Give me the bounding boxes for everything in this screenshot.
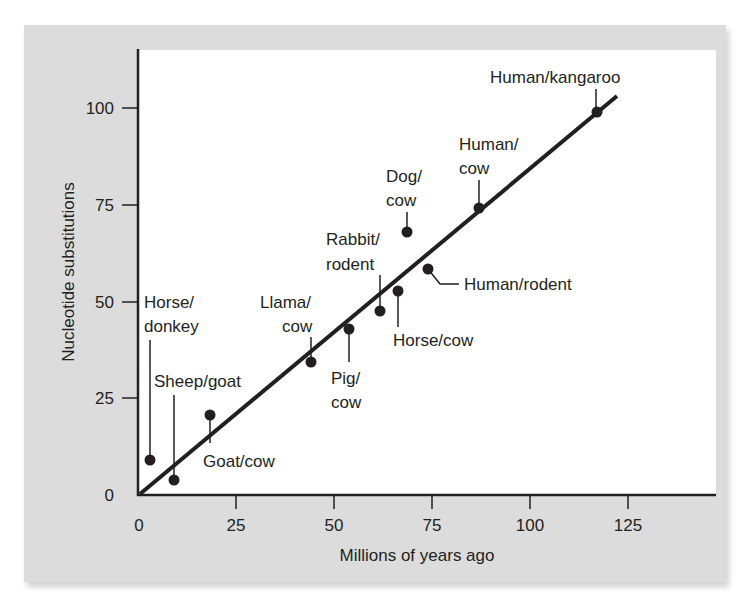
point-llama-cow xyxy=(306,357,317,368)
point-human-cow xyxy=(474,203,485,214)
label-horse-cow: Horse/cow xyxy=(393,331,474,350)
label-llama-cow-line1: Llama/ xyxy=(260,293,311,312)
x-tick-label: 125 xyxy=(614,516,642,535)
x-axis-title: Millions of years ago xyxy=(340,546,495,565)
point-horse-cow xyxy=(393,286,404,297)
x-tick-label: 100 xyxy=(516,516,544,535)
label-goat-cow: Goat/cow xyxy=(203,452,276,471)
y-tick-label: 25 xyxy=(95,389,114,408)
point-dog-cow xyxy=(402,227,413,238)
point-human-kangaroo xyxy=(592,107,603,118)
point-sheep-goat xyxy=(169,475,180,486)
point-rabbit-rodent xyxy=(375,306,386,317)
label-pig-cow-line2: cow xyxy=(331,393,362,412)
label-pig-cow-line1: Pig/ xyxy=(331,369,361,388)
label-dog-cow-line2: cow xyxy=(386,191,417,210)
y-tick-label: 75 xyxy=(95,196,114,215)
scatter-chart: 100 75 50 25 0 0 25 50 75 100 125 Millio… xyxy=(0,0,747,612)
label-human-kangaroo: Human/kangaroo xyxy=(490,68,620,87)
y-ticks xyxy=(122,108,138,398)
y-tick-labels: 100 75 50 25 0 xyxy=(86,99,114,505)
label-dog-cow-line1: Dog/ xyxy=(386,167,422,186)
label-human-rodent: Human/rodent xyxy=(464,275,572,294)
label-sheep-goat: Sheep/goat xyxy=(154,372,241,391)
x-ticks xyxy=(236,495,628,509)
y-axis-title: Nucleotide substitutions xyxy=(59,182,78,362)
label-horse-donkey-line1: Horse/ xyxy=(144,293,194,312)
point-goat-cow xyxy=(205,410,216,421)
label-human-cow-line1: Human/ xyxy=(459,135,519,154)
label-rabbit-rodent-line2: rodent xyxy=(326,255,374,274)
x-tick-label: 25 xyxy=(227,516,246,535)
x-tick-label: 0 xyxy=(134,516,143,535)
label-horse-donkey-line2: donkey xyxy=(144,317,199,336)
x-tick-labels: 0 25 50 75 100 125 xyxy=(134,516,642,535)
label-human-cow-line2: cow xyxy=(459,159,490,178)
x-tick-label: 75 xyxy=(423,516,442,535)
y-tick-label: 0 xyxy=(105,486,114,505)
label-llama-cow-line2: cow xyxy=(282,317,313,336)
point-horse-donkey xyxy=(145,455,156,466)
point-pig-cow xyxy=(344,324,355,335)
x-tick-label: 50 xyxy=(325,516,344,535)
y-tick-label: 100 xyxy=(86,99,114,118)
label-rabbit-rodent-line1: Rabbit/ xyxy=(326,230,380,249)
point-human-rodent xyxy=(423,264,434,275)
y-tick-label: 50 xyxy=(95,293,114,312)
